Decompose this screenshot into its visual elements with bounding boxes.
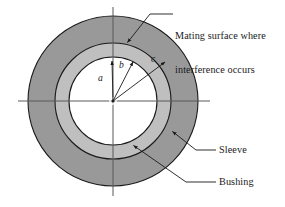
callout-bushing: Bushing [219,176,254,187]
radius-label-b: b [119,60,124,71]
radius-label-a: a [98,73,103,84]
callout-mating-line-2: interference occurs [175,64,266,75]
callout-mating-line-1: Mating surface where [175,30,266,41]
radius-label-c: c [151,54,155,65]
callout-mating-surface: Mating surface where interference occurs [175,7,266,98]
callout-sleeve: Sleeve [219,144,247,155]
center-node [111,99,114,102]
interference-fit-figure: Mating surface where interference occurs… [0,0,285,207]
